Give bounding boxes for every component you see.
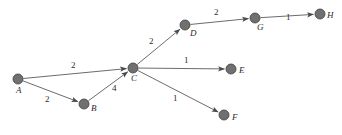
graph-edge-b-c xyxy=(88,72,127,101)
graph-node-label-e: E xyxy=(239,66,245,75)
graph-node-d[interactable] xyxy=(180,20,190,30)
graph-edge-a-c xyxy=(23,69,126,79)
graph-node-e[interactable] xyxy=(226,64,236,74)
graph-node-label-h: H xyxy=(327,11,334,20)
graph-node-a[interactable] xyxy=(13,74,23,84)
edge-weight-d-g: 2 xyxy=(214,8,219,17)
graph-node-label-a: A xyxy=(16,86,22,95)
graph-edge-a-b xyxy=(23,81,78,102)
graph-node-h[interactable] xyxy=(315,9,325,19)
graph-figure: 22421121ABCDEFGH xyxy=(0,0,342,135)
graph-node-label-b: B xyxy=(91,104,97,113)
edge-weight-c-f: 1 xyxy=(173,94,178,103)
graph-edge-c-f xyxy=(138,71,218,112)
graph-node-label-d: D xyxy=(190,29,197,38)
graph-canvas xyxy=(0,0,342,135)
graph-node-label-f: F xyxy=(232,113,238,122)
edge-weight-c-d: 2 xyxy=(149,37,154,46)
edge-weight-a-b: 2 xyxy=(45,95,50,104)
graph-edge-c-d xyxy=(137,29,180,64)
node-layer xyxy=(13,9,325,120)
edge-weight-a-c: 2 xyxy=(71,61,76,70)
graph-node-label-c: C xyxy=(131,74,137,83)
graph-node-f[interactable] xyxy=(219,110,229,120)
graph-node-c[interactable] xyxy=(128,63,138,73)
graph-node-b[interactable] xyxy=(79,99,89,109)
edge-weight-g-h: 1 xyxy=(286,13,291,22)
graph-edge-d-g xyxy=(190,19,248,25)
graph-edge-c-e xyxy=(138,68,224,69)
graph-node-label-g: G xyxy=(257,23,264,32)
edge-weight-b-c: 4 xyxy=(112,84,117,93)
edge-weight-c-e: 1 xyxy=(184,56,189,65)
edge-layer xyxy=(23,14,313,112)
